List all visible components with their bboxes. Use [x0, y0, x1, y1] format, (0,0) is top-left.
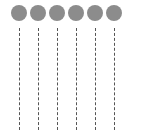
lifeline-node — [49, 5, 65, 21]
lifeline-node — [11, 5, 27, 21]
lifeline-node — [30, 5, 46, 21]
dashed-lifeline — [76, 28, 77, 130]
dashed-lifeline — [114, 28, 115, 130]
lifeline-node — [68, 5, 84, 21]
lifeline-node — [87, 5, 103, 21]
lifeline-node — [106, 5, 122, 21]
dashed-lifeline — [57, 28, 58, 130]
dashed-lifeline — [19, 28, 20, 130]
dashed-lifeline — [95, 28, 96, 130]
dashed-lifeline — [38, 28, 39, 130]
